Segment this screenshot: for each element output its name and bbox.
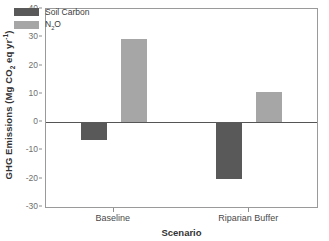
- y-tick-mark: [39, 36, 42, 37]
- bar: [216, 122, 242, 179]
- bar: [81, 122, 107, 140]
- y-axis-title-sub: 2: [9, 66, 16, 70]
- legend-item-soil-carbon: Soil Carbon: [14, 5, 89, 18]
- legend-swatch-n2o: [14, 21, 39, 29]
- legend-swatch-soil-carbon: [14, 8, 39, 16]
- bar: [121, 39, 147, 122]
- chart-legend: Soil Carbon N2O: [14, 5, 89, 31]
- legend-item-n2o: N2O: [14, 18, 89, 31]
- x-axis-tick-labels: BaselineRiparian Buffer: [45, 213, 318, 227]
- legend-label-n2o: N2O: [45, 19, 61, 31]
- bar: [256, 92, 282, 122]
- y-tick-mark: [39, 64, 42, 65]
- y-axis-ticks: 403020100-10-20-30: [16, 0, 42, 215]
- y-tick-label: 30: [29, 31, 38, 41]
- y-tick-mark: [39, 92, 42, 93]
- y-tick-label: 20: [29, 60, 38, 70]
- x-axis-title: Scenario: [45, 227, 318, 238]
- y-tick-mark: [39, 177, 42, 178]
- y-tick-mark: [39, 121, 42, 122]
- y-tick-label: -30: [26, 201, 38, 211]
- x-tick-label: Riparian Buffer: [218, 213, 278, 223]
- y-tick-mark: [39, 206, 42, 207]
- legend-label-soil-carbon: Soil Carbon: [45, 7, 89, 17]
- y-tick-mark: [39, 149, 42, 150]
- y-tick-label: -20: [26, 173, 38, 183]
- y-tick-label: -10: [26, 144, 38, 154]
- y-tick-label: 10: [29, 88, 38, 98]
- y-axis-title-text: GHG Emissions (Mg CO2 eq yr-1): [2, 30, 16, 179]
- x-tick-mark: [113, 208, 114, 212]
- x-tick-mark: [248, 208, 249, 212]
- chart-figure: GHG Emissions (Mg CO2 eq yr-1) 403020100…: [0, 0, 329, 241]
- x-tick-label: Baseline: [95, 213, 130, 223]
- y-axis-title-sup: -1: [2, 34, 9, 40]
- y-tick-label: 0: [33, 116, 38, 126]
- plot-area: [45, 8, 318, 208]
